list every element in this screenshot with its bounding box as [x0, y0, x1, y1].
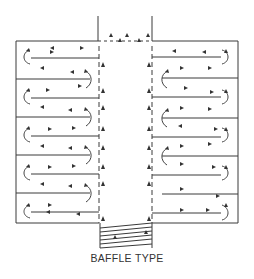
casing-left: [16, 41, 99, 223]
casing-right: [152, 41, 238, 223]
left-baffle-stack: [16, 58, 99, 212]
right-baffle-stack: [152, 57, 238, 213]
diagram-title: BAFFLE TYPE: [0, 252, 254, 264]
inlet-baffle-box: [100, 223, 152, 248]
baffle-diagram: [0, 0, 254, 279]
